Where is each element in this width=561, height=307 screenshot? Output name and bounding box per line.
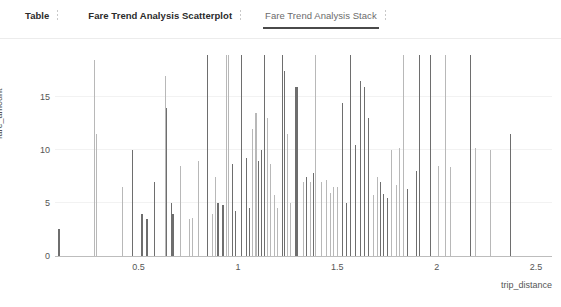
tab-table[interactable]: Table xyxy=(23,0,51,31)
bar[interactable] xyxy=(232,164,233,256)
bar[interactable] xyxy=(261,150,262,256)
bar[interactable] xyxy=(419,55,420,256)
bar[interactable] xyxy=(264,55,265,256)
bar[interactable] xyxy=(337,187,338,256)
bar[interactable] xyxy=(282,55,283,256)
bar[interactable] xyxy=(470,55,471,256)
bar[interactable] xyxy=(249,208,250,256)
bar[interactable] xyxy=(387,198,388,256)
bar[interactable] xyxy=(235,211,236,256)
bar[interactable] xyxy=(207,55,208,256)
x-axis-tick-label: 2 xyxy=(434,262,439,272)
bar[interactable] xyxy=(407,189,408,256)
bar[interactable] xyxy=(321,182,322,256)
bar[interactable] xyxy=(228,55,229,256)
bar[interactable] xyxy=(252,129,253,256)
bar[interactable] xyxy=(333,187,334,256)
bar[interactable] xyxy=(350,55,351,256)
bar[interactable] xyxy=(277,208,278,256)
bar[interactable] xyxy=(122,187,123,256)
tab-separator-handle-2[interactable] xyxy=(234,0,247,31)
bar[interactable] xyxy=(212,214,213,256)
bar[interactable] xyxy=(295,87,298,256)
bar[interactable] xyxy=(287,134,288,256)
x-axis-tick-label: 1.5 xyxy=(331,262,344,272)
bar[interactable] xyxy=(215,177,216,256)
bar[interactable] xyxy=(141,214,143,256)
bar[interactable] xyxy=(313,173,314,256)
x-axis-label: trip_distance xyxy=(501,280,552,290)
bar[interactable] xyxy=(246,158,247,256)
bar[interactable] xyxy=(284,71,285,256)
bar[interactable] xyxy=(355,145,356,256)
bar[interactable] xyxy=(438,166,439,256)
x-axis-tick-label: 1 xyxy=(235,262,240,272)
tab-separator-handle-1[interactable] xyxy=(51,0,64,31)
bar[interactable] xyxy=(180,166,181,256)
y-axis-label: fare_amount xyxy=(0,88,4,139)
bar[interactable] xyxy=(346,203,347,256)
bar[interactable] xyxy=(416,171,417,256)
bar[interactable] xyxy=(146,219,148,256)
bar[interactable] xyxy=(364,87,365,256)
bar[interactable] xyxy=(189,219,190,256)
y-axis-tick-label: 10 xyxy=(6,145,50,155)
bar[interactable] xyxy=(368,118,369,256)
x-axis-tick-label: 0.5 xyxy=(132,262,145,272)
bar[interactable] xyxy=(58,229,60,257)
gridline xyxy=(55,96,552,97)
bar[interactable] xyxy=(226,55,227,256)
bar[interactable] xyxy=(274,195,275,256)
tab-fare-trend-analysis-stack-label: Fare Trend Analysis Stack xyxy=(263,11,379,21)
bar[interactable] xyxy=(490,150,491,256)
bar[interactable] xyxy=(217,203,219,256)
bar[interactable] xyxy=(403,55,404,256)
bar[interactable] xyxy=(373,195,374,256)
bar[interactable] xyxy=(132,150,133,256)
fare-trend-analysis-stack-chart: 051015 0.511.522.5 fare_amount trip_dist… xyxy=(0,44,561,307)
tab-fare-trend-analysis-scatterplot-label: Fare Trend Analysis Scatterplot xyxy=(86,11,234,21)
bar[interactable] xyxy=(326,180,327,256)
bar[interactable] xyxy=(222,205,224,256)
bar[interactable] xyxy=(391,150,392,256)
bar[interactable] xyxy=(383,194,384,256)
bar[interactable] xyxy=(430,55,431,256)
tab-separator-handle-3[interactable] xyxy=(379,0,392,31)
bar[interactable] xyxy=(380,182,381,256)
bar[interactable] xyxy=(290,203,291,256)
bar[interactable] xyxy=(198,161,199,256)
bar[interactable] xyxy=(303,182,304,256)
tab-bar: Table Fare Trend Analysis Scatterplot Fa… xyxy=(0,0,561,31)
bar[interactable] xyxy=(96,134,97,256)
bar[interactable] xyxy=(172,214,174,256)
bar[interactable] xyxy=(270,164,271,256)
y-axis-tick-label: 5 xyxy=(6,198,50,208)
bar[interactable] xyxy=(310,182,311,256)
bar[interactable] xyxy=(475,148,476,256)
bar[interactable] xyxy=(241,55,242,256)
bar[interactable] xyxy=(192,218,193,256)
bar[interactable] xyxy=(342,103,343,256)
bar[interactable] xyxy=(258,161,259,256)
tab-fare-trend-analysis-scatterplot[interactable]: Fare Trend Analysis Scatterplot xyxy=(86,0,234,31)
plot-area xyxy=(55,55,552,256)
bar[interactable] xyxy=(450,167,451,256)
bar[interactable] xyxy=(360,81,361,256)
tab-table-label: Table xyxy=(23,11,51,21)
y-axis-ticks: 051015 xyxy=(0,44,50,264)
bar[interactable] xyxy=(255,113,257,256)
header-divider xyxy=(0,38,561,39)
bar[interactable] xyxy=(267,118,268,256)
bar[interactable] xyxy=(315,55,316,256)
bar[interactable] xyxy=(166,108,167,256)
bar[interactable] xyxy=(510,134,511,256)
bar[interactable] xyxy=(330,193,331,256)
bar[interactable] xyxy=(445,55,446,256)
tab-fare-trend-analysis-stack[interactable]: Fare Trend Analysis Stack xyxy=(263,0,379,31)
bar[interactable] xyxy=(396,185,397,256)
bar[interactable] xyxy=(306,177,307,256)
bar[interactable] xyxy=(377,177,378,256)
bar[interactable] xyxy=(94,60,95,256)
bar[interactable] xyxy=(154,182,155,256)
bar[interactable] xyxy=(399,148,400,256)
